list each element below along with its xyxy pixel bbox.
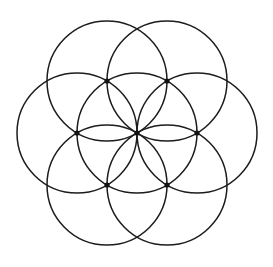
- node-group: [74, 78, 199, 187]
- node-lower-right: [164, 182, 169, 187]
- node-left: [74, 130, 79, 135]
- seed-of-life-figure: [0, 0, 273, 267]
- node-right: [194, 130, 199, 135]
- figure-canvas: [0, 0, 273, 267]
- node-upper-left: [104, 78, 109, 83]
- node-upper-right: [164, 78, 169, 83]
- node-center: [134, 130, 139, 135]
- node-lower-left: [104, 182, 109, 187]
